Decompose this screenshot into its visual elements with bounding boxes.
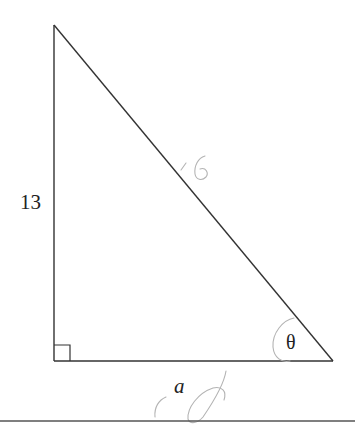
handwritten-16 [181,156,207,179]
right-triangle-diagram: 13 θ a [0,0,355,442]
vertical-leg-label: 13 [20,190,41,214]
angle-theta-label: θ [286,331,296,353]
right-angle-marker [54,345,70,361]
hypotenuse [54,25,333,361]
horizontal-leg-label: a [174,374,185,398]
scribble-under-a [155,397,166,417]
